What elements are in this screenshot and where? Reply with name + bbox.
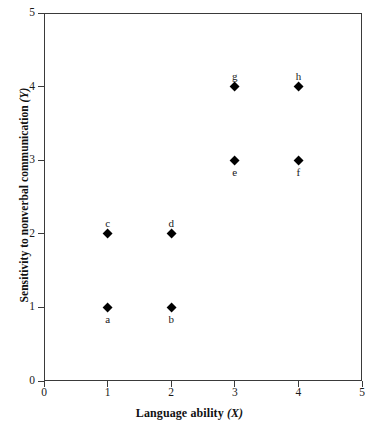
y-tick-mark [38, 160, 44, 161]
data-point-label: c [96, 217, 120, 229]
y-tick-mark [38, 233, 44, 234]
x-axis-title: Language ability (X) [0, 406, 379, 421]
x-tick-label: 1 [95, 386, 121, 399]
y-tick-mark [38, 381, 44, 382]
y-tick-mark [38, 86, 44, 87]
y-tick-mark [38, 307, 44, 308]
y-axis-title: Sensitivity to nonverbal communication (… [18, 5, 30, 385]
plot-area-frame [44, 13, 362, 381]
data-point-label: d [159, 217, 183, 229]
x-axis-title-text: Language ability [136, 406, 224, 420]
x-tick-label: 3 [222, 386, 248, 399]
data-point-label: a [96, 313, 120, 325]
y-tick-mark [38, 13, 44, 14]
data-point-label: g [223, 70, 247, 82]
x-tick-label: 2 [158, 386, 184, 399]
data-point-label: f [286, 166, 310, 178]
x-tick-label: 0 [31, 386, 57, 399]
x-tick-label: 4 [285, 386, 311, 399]
scatter-plot-figure: 012345 012345 abcdefgh Language ability … [0, 0, 379, 428]
x-axis-title-variable: (X) [227, 406, 243, 420]
data-point-label: h [286, 70, 310, 82]
x-tick-label: 5 [349, 386, 375, 399]
y-axis-title-variable: (Y) [18, 88, 30, 103]
data-point-label: e [223, 166, 247, 178]
data-point-label: b [159, 313, 183, 325]
y-axis-title-text: Sensitivity to nonverbal communication [18, 105, 30, 302]
